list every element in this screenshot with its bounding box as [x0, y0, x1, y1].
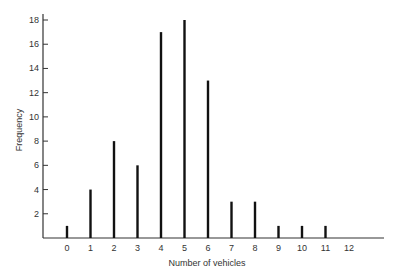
x-tick-label: 3	[135, 243, 140, 253]
frequency-bar-chart: 24681012141618 0123456789101112 Frequenc…	[0, 0, 393, 279]
x-tick-label: 6	[205, 243, 210, 253]
x-tick-label: 1	[88, 243, 93, 253]
y-axis-label: Frequency	[14, 108, 24, 151]
x-tick-label: 0	[64, 243, 69, 253]
x-tick-label: 4	[158, 243, 163, 253]
x-tick-label: 5	[182, 243, 187, 253]
y-tick-label: 4	[34, 185, 39, 195]
x-tick-label: 9	[276, 243, 281, 253]
x-tick-label: 2	[111, 243, 116, 253]
bars	[67, 20, 326, 238]
y-tick-label: 6	[34, 160, 39, 170]
y-tick-label: 2	[34, 209, 39, 219]
x-axis: 0123456789101112	[43, 238, 384, 253]
y-tick-label: 16	[29, 39, 39, 49]
y-tick-label: 8	[34, 136, 39, 146]
y-axis: 24681012141618	[29, 14, 48, 238]
y-tick-label: 18	[29, 15, 39, 25]
x-axis-label: Number of vehicles	[168, 258, 246, 268]
x-tick-label: 12	[344, 243, 354, 253]
x-tick-label: 10	[297, 243, 307, 253]
y-tick-label: 14	[29, 63, 39, 73]
x-tick-label: 8	[252, 243, 257, 253]
y-tick-label: 10	[29, 112, 39, 122]
y-tick-label: 12	[29, 88, 39, 98]
x-tick-label: 7	[229, 243, 234, 253]
x-tick-label: 11	[321, 243, 330, 253]
